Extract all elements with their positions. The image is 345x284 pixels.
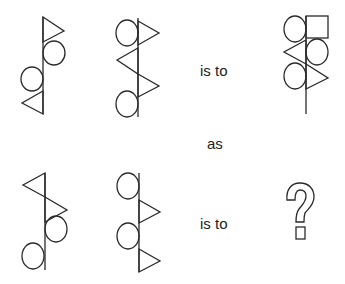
question-mark-icon	[287, 183, 314, 239]
circle-left-shape	[284, 63, 306, 89]
row2-figure-a	[22, 173, 67, 270]
row2-figure-b	[117, 173, 160, 272]
circle-right-shape	[306, 39, 328, 65]
circle-left-shape	[284, 16, 306, 42]
triangle-left-shape	[22, 91, 43, 114]
circle-left-shape	[21, 67, 43, 91]
circle-left-shape	[116, 20, 138, 46]
circle-left-shape	[117, 223, 139, 249]
triangle-left-shape	[117, 48, 138, 74]
as-label: as	[207, 136, 223, 151]
row1-figure-b	[116, 18, 159, 117]
triangle-right-shape	[43, 17, 64, 42]
triangle-right-shape	[45, 197, 67, 222]
triangle-right-shape	[139, 249, 160, 272]
is-to-label-row2: is to	[200, 216, 228, 231]
row1-figure-c	[284, 16, 328, 114]
analogy-figures	[0, 0, 345, 284]
triangle-right-shape	[306, 64, 328, 89]
is-to-label-row1: is to	[200, 63, 228, 78]
circle-left-shape	[117, 173, 139, 199]
triangle-right-shape	[139, 200, 160, 223]
circle-right-shape	[45, 216, 67, 242]
square-right-shape	[306, 16, 328, 38]
triangle-left-shape	[23, 173, 45, 197]
circle-left-shape	[22, 243, 44, 269]
triangle-left-shape	[284, 40, 306, 64]
circle-left-shape	[116, 91, 138, 117]
triangle-right-shape	[138, 21, 159, 45]
triangle-right-shape	[138, 74, 159, 97]
row1-figure-a	[21, 17, 65, 114]
circle-right-shape	[43, 41, 65, 65]
